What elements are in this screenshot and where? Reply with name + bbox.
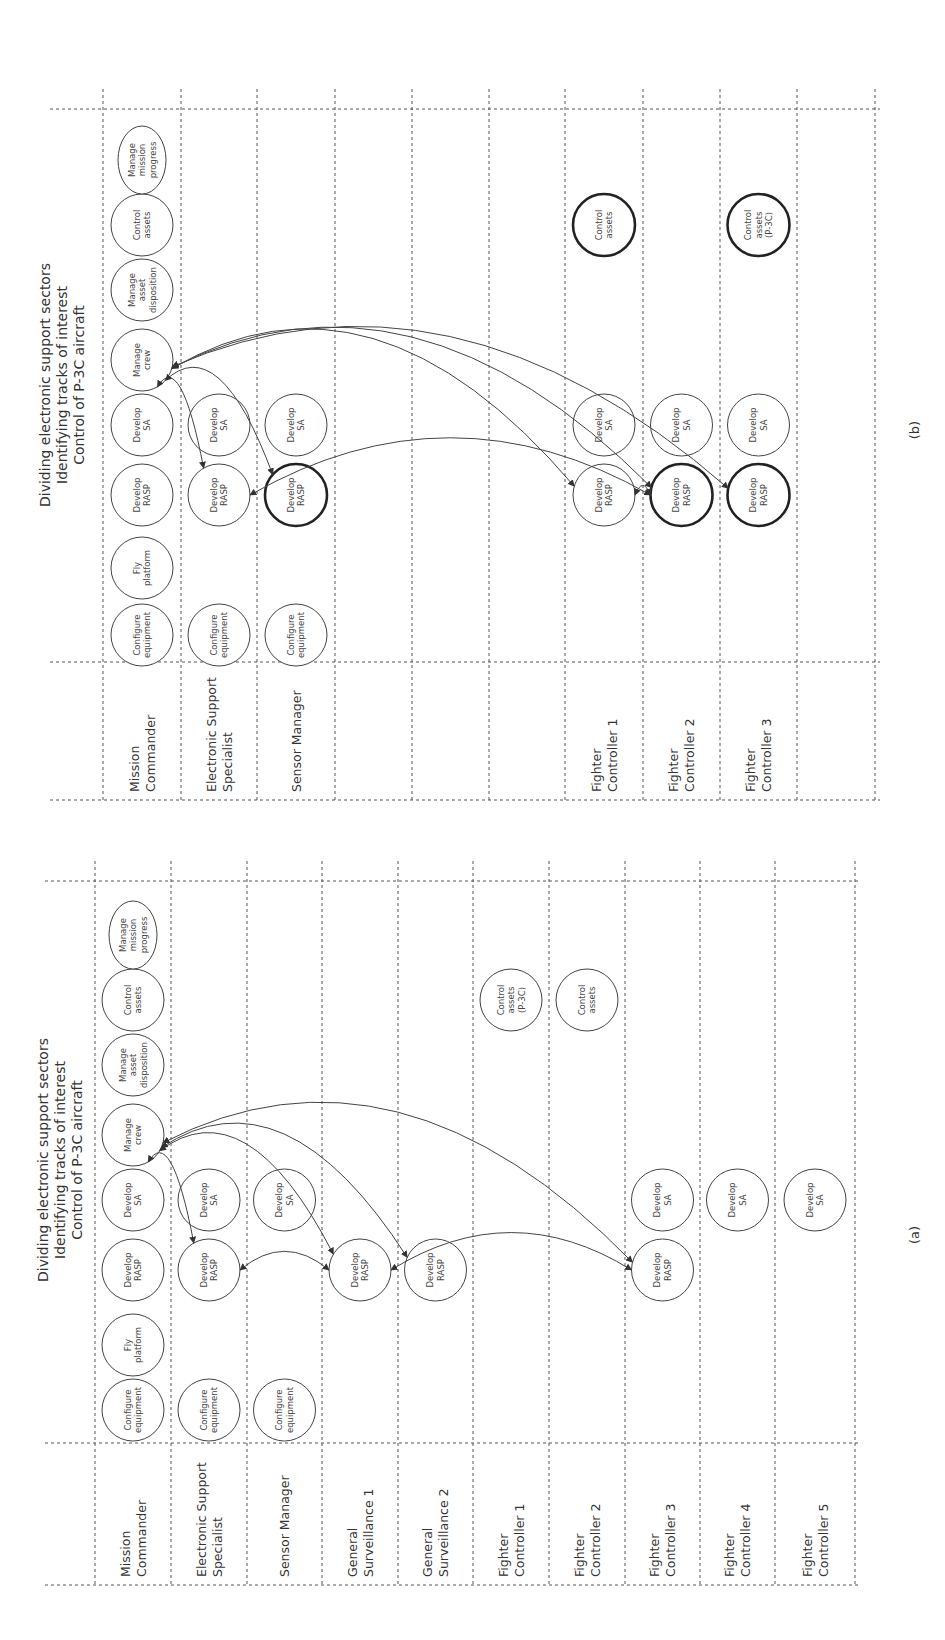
lane-label-line: Fighter xyxy=(743,748,758,792)
node-label-line: SA xyxy=(219,419,229,431)
lane-label-line: Fighter xyxy=(496,1533,511,1577)
node-label-line: asset xyxy=(137,278,147,301)
node-label-line: equipment xyxy=(296,611,306,658)
lane-label-fc2: FighterController 2 xyxy=(572,1504,603,1577)
activity-node-a-ess-rasp: DevelopRASP xyxy=(178,1239,240,1301)
activity-node-a-fc5-sa: DevelopSA xyxy=(784,1169,846,1231)
lane-label-line: Sensor Manager xyxy=(277,1475,292,1577)
node-label-line: Develop xyxy=(132,408,142,443)
node-label-line: progress xyxy=(139,916,149,953)
panel-label: (b) xyxy=(907,421,922,439)
activity-node-b-fc1-rasp: DevelopRASP xyxy=(573,464,635,526)
activity-node-a-sm-cfg: Configureequipment xyxy=(254,1379,316,1441)
node-label: Managemissionprogress xyxy=(118,916,149,953)
lane-label-line: Controller 2 xyxy=(588,1504,603,1577)
node-label-line: SA xyxy=(682,419,692,431)
node-label-line: RASP xyxy=(360,1259,370,1281)
node-label: Configureequipment xyxy=(199,1386,220,1433)
node-label-line: Develop xyxy=(671,478,681,513)
lane-label-line: Mission xyxy=(127,746,142,792)
node-label-line: SA xyxy=(296,419,306,431)
node-label-line: Develop xyxy=(199,1183,209,1218)
activity-node-b-fc3-sa: DevelopSA xyxy=(728,394,790,456)
lane-label-line: Fighter xyxy=(722,1533,737,1577)
node-label-line: Control xyxy=(123,985,133,1016)
node-label-line: Control xyxy=(743,210,753,241)
lane-label-sm: Sensor Manager xyxy=(289,690,304,792)
node-label-line: Configure xyxy=(274,1389,284,1430)
node-label-line: equipment xyxy=(219,611,229,658)
node-label-line: equipment xyxy=(142,611,152,658)
node-label-line: Develop xyxy=(652,1183,662,1218)
node-label: Controlassets xyxy=(123,985,144,1016)
activity-node-a-mc-fly: Flyplatform xyxy=(102,1314,164,1376)
node-label-line: SA xyxy=(142,419,152,431)
node-label-line: Develop xyxy=(425,1253,435,1288)
lane-label-line: Controller 1 xyxy=(605,719,620,792)
node-label-line: Control xyxy=(577,985,587,1016)
node-label: Configureequipment xyxy=(209,611,230,658)
node-label-line: Develop xyxy=(748,408,758,443)
activity-node-a-mc-crew: Managecrew xyxy=(102,1104,164,1166)
node-label-line: assets xyxy=(506,986,516,1014)
activity-node-b-ess-cfg: Configureequipment xyxy=(188,604,250,666)
activity-node-b-sm-sa: DevelopSA xyxy=(265,394,327,456)
panel-a: Dividing electronic support sectorsIdent… xyxy=(35,861,922,1585)
lane-label-line: General xyxy=(420,1528,435,1577)
node-label-line: Develop xyxy=(123,1253,133,1288)
node-label-line: SA xyxy=(738,1194,748,1206)
activity-node-a-mc-ctrl: Controlassets xyxy=(102,969,164,1031)
panel-label: (a) xyxy=(907,1226,922,1244)
node-label-line: Develop xyxy=(286,408,296,443)
activity-node-b-mc-disp: Manageassetdisposition xyxy=(111,259,173,321)
node-label-line: Develop xyxy=(594,478,604,513)
lane-label-line: Commander xyxy=(134,1499,149,1577)
lane-label-line: Electronic Support xyxy=(204,677,219,792)
swimlane-diagram-figure: Dividing electronic support sectorsIdent… xyxy=(0,0,945,1640)
node-label-line: RASP xyxy=(142,484,152,506)
activity-node-a-mc-sa: DevelopSA xyxy=(102,1169,164,1231)
node-label-line: Manage xyxy=(118,918,128,952)
node-label-line: equipment xyxy=(133,1386,143,1433)
activity-node-b-mc-prog: Managemissionprogress xyxy=(118,126,166,194)
lane-label-line: Specialist xyxy=(220,732,235,792)
node-label-line: SA xyxy=(663,1194,673,1206)
node-label-line: Fly xyxy=(123,1339,133,1351)
node-label-line: SA xyxy=(285,1194,295,1206)
lane-label-sm: Sensor Manager xyxy=(277,1475,292,1577)
activity-node-a-gs1-rasp: DevelopRASP xyxy=(329,1239,391,1301)
node-label-line: RASP xyxy=(133,1259,143,1281)
activity-node-a-fc4-sa: DevelopSA xyxy=(707,1169,769,1231)
diagram-title: Dividing electronic support sectorsIdent… xyxy=(35,1038,85,1282)
diagram-title: Dividing electronic support sectorsIdent… xyxy=(37,263,87,507)
node-label-line: mission xyxy=(128,919,138,951)
lane-label-fc4: FighterController 4 xyxy=(722,1504,753,1577)
lane-label-mc: MissionCommander xyxy=(127,714,158,792)
node-label-line: crew xyxy=(142,350,152,370)
activity-node-b-ess-sa: DevelopSA xyxy=(188,394,250,456)
lane-label-gs1: GeneralSurveillance 1 xyxy=(345,1488,376,1577)
node-label-line: assets xyxy=(604,211,614,239)
node-label-line: progress xyxy=(148,141,158,178)
lane-label-line: Fighter xyxy=(666,748,681,792)
node-label-line: Develop xyxy=(671,408,681,443)
lane-label-line: Controller 2 xyxy=(682,719,697,792)
activity-node-a-gs2-rasp: DevelopRASP xyxy=(405,1239,467,1301)
activity-node-b-fc3-ctrl: Controlassets(P-3C) xyxy=(728,194,790,256)
node-label-line: RASP xyxy=(682,484,692,506)
activity-node-b-ess-rasp: DevelopRASP xyxy=(188,464,250,526)
node-label-line: Configure xyxy=(209,614,219,655)
node-label-line: SA xyxy=(133,1194,143,1206)
lane-label-line: Sensor Manager xyxy=(289,690,304,792)
diagram-title-line: Dividing electronic support sectors xyxy=(35,1038,51,1282)
lane-label-line: Controller 3 xyxy=(663,1504,678,1577)
node-label: Controlassets xyxy=(577,985,598,1016)
node-label-line: (P-3C) xyxy=(517,987,527,1013)
activity-node-b-mc-rasp: DevelopRASP xyxy=(111,464,173,526)
activity-node-a-mc-disp: Manageassetdisposition xyxy=(102,1034,164,1096)
node-label-line: equipment xyxy=(285,1386,295,1433)
lane-label-line: Mission xyxy=(118,1531,133,1577)
lane-label-line: Surveillance 2 xyxy=(436,1488,451,1577)
lane-label-line: Fighter xyxy=(800,1533,815,1577)
activity-node-a-fc3-sa: DevelopSA xyxy=(632,1169,694,1231)
